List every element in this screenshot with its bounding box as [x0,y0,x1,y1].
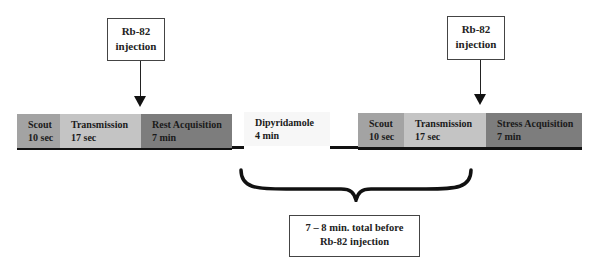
segment-name: Stress Acquisition [497,117,582,130]
segment-transmission-stress: Transmission 17 sec [404,113,486,147]
arrow-line-stress [480,60,481,97]
segment-name: Transmission [415,117,486,130]
segment-name: Scout [369,117,404,130]
note-line1: 7 – 8 min. total before [290,221,419,235]
timeline-baseline-gap [232,146,244,149]
note-line2: Rb-82 injection [290,235,419,249]
segment-name: Scout [28,118,60,131]
total-time-note: 7 – 8 min. total before Rb-82 injection [289,215,420,257]
injection-label-line1: Rb-82 [108,24,164,39]
injection-label-line2: injection [448,37,504,52]
segment-transmission-rest: Transmission 17 sec [60,114,141,148]
arrow-line-rest [140,61,141,98]
injection-label-line1: Rb-82 [448,22,504,37]
segment-duration: 10 sec [28,131,60,144]
injection-callout-stress: Rb-82 injection [447,16,505,60]
segment-scout-rest: Scout 10 sec [17,114,60,148]
segment-stress-acquisition: Stress Acquisition 7 min [486,113,582,147]
arrow-down-icon [474,94,486,105]
segment-scout-stress: Scout 10 sec [358,113,404,147]
arrow-down-icon [134,96,146,107]
segment-rest-acquisition: Rest Acquisition 7 min [141,114,232,148]
segment-duration: 17 sec [71,131,141,144]
segment-duration: 4 min [255,129,330,142]
injection-callout-rest: Rb-82 injection [107,18,165,61]
segment-name: Rest Acquisition [152,118,232,131]
segment-duration: 7 min [152,131,232,144]
segment-name: Dipyridamole [255,116,330,129]
segment-dipyridamole: Dipyridamole 4 min [244,112,330,146]
segment-duration: 10 sec [369,130,404,143]
segment-name: Transmission [71,118,141,131]
timeline-baseline-gap [330,146,358,149]
timeline-baseline [358,147,582,150]
curly-brace-icon [236,166,476,202]
segment-duration: 7 min [497,130,582,143]
segment-duration: 17 sec [415,130,486,143]
injection-label-line2: injection [108,39,164,54]
